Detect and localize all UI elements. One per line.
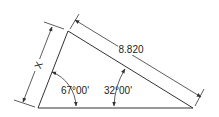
- triangle-diagram: X 8.820 67°00' 32°00': [0, 0, 219, 117]
- hypotenuse-edge: [68, 31, 193, 108]
- hypotenuse-extension-lines: [70, 14, 204, 106]
- hypotenuse-dimension-line: [75, 20, 201, 97]
- angle-right-label: 32°00': [104, 85, 132, 96]
- hypotenuse-length-label: 8.820: [118, 44, 143, 55]
- angle-left-label: 67°00': [61, 85, 89, 96]
- triangle: [38, 31, 193, 108]
